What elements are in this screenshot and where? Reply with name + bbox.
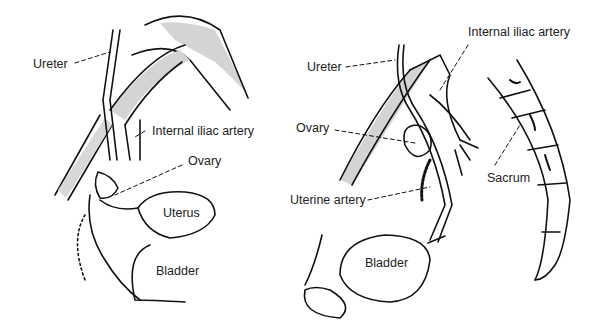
- anatomy-illustration: [0, 0, 602, 325]
- right-label-ovary: Ovary: [296, 122, 329, 135]
- right-organs: [304, 60, 570, 318]
- right-label-bladder: Bladder: [365, 257, 408, 270]
- right-label-ureter: Ureter: [307, 61, 342, 74]
- left-label-uterus: Uterus: [163, 207, 200, 220]
- left-label-ureter: Ureter: [33, 58, 68, 71]
- left-label-bladder: Bladder: [156, 265, 199, 278]
- left-label-internal-iliac-artery: Internal iliac artery: [152, 125, 254, 138]
- right-label-uterine-artery: Uterine artery: [290, 194, 366, 207]
- right-vessels: [340, 45, 478, 242]
- right-label-internal-iliac-artery: Internal iliac artery: [468, 26, 570, 39]
- left-organs: [78, 172, 216, 302]
- right-label-sacrum: Sacrum: [487, 172, 530, 185]
- left-label-ovary: Ovary: [188, 155, 221, 168]
- left-vessels: [55, 16, 248, 200]
